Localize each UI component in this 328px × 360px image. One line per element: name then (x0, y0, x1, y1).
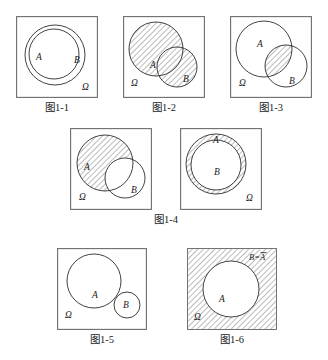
label-a: A (218, 294, 225, 304)
label-omega: Ω (131, 78, 138, 88)
label-b: B (214, 167, 220, 177)
label-b: B (289, 76, 295, 86)
label-omega: Ω (239, 78, 246, 88)
label-omega: Ω (194, 312, 201, 322)
label-b-equals-a-complement: B=A (249, 252, 266, 262)
figure-1-6: A Ω B=A (187, 248, 277, 330)
label-b: B (74, 55, 80, 65)
label-omega: Ω (65, 310, 72, 320)
figure-1-2: A B Ω (123, 16, 205, 98)
figure-1-1: A B Ω (16, 16, 98, 98)
label-a: A (35, 52, 42, 62)
circle-a (203, 261, 259, 317)
label-a: A (83, 162, 90, 172)
label-omega: Ω (79, 192, 86, 202)
label-a: A (256, 39, 263, 49)
complement-annotation: B=A (249, 252, 267, 262)
label-a: A (91, 290, 98, 300)
label-a: A (212, 135, 219, 145)
label-omega: Ω (246, 193, 253, 203)
label-a: A (149, 60, 156, 70)
label-b: B (123, 300, 129, 310)
label-omega: Ω (82, 82, 89, 92)
figure-1-4-right: A B Ω (180, 128, 262, 210)
caption-figure-1-6: 图1-6 (187, 333, 277, 346)
caption-figure-1-2: 图1-2 (123, 101, 205, 114)
caption-figure-1-4: 图1-4 (70, 213, 262, 226)
figure-1-3: A B Ω (230, 16, 312, 98)
label-b: B (131, 185, 137, 195)
caption-figure-1-1: 图1-1 (16, 101, 98, 114)
caption-figure-1-3: 图1-3 (230, 101, 312, 114)
caption-figure-1-5: 图1-5 (57, 333, 147, 346)
venn-diagram-sheet: A B Ω 图1-1 A B Ω 图1-2 (0, 0, 328, 360)
figure-1-4-left: A B Ω (70, 128, 152, 210)
figure-1-5: A B Ω (57, 248, 147, 330)
label-b: B (183, 74, 189, 84)
